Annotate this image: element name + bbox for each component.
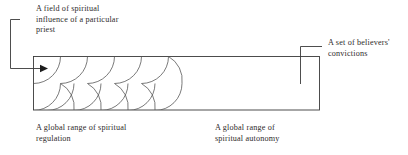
spiritual-influence-arc-field [34, 57, 183, 111]
label-believers-convictions: A set of believers' convictions [328, 38, 406, 59]
arc-tail-4 [142, 84, 156, 111]
label-spiritual-regulation: A global range of spiritual regulation [36, 123, 176, 144]
arc-upper-5 [142, 57, 169, 84]
believers-field-rectangle [34, 57, 320, 111]
arc-lower-5 [128, 84, 155, 111]
priest-influence-arrowhead [40, 65, 48, 72]
arc-lower-6 [155, 84, 182, 111]
arc-lower-3 [74, 84, 101, 111]
label-spiritual-autonomy: A global range of spiritual autonomy [215, 123, 325, 144]
arc-upper-2 [61, 57, 88, 84]
arc-upper-1 [34, 57, 61, 84]
arc-tail-3 [115, 84, 129, 111]
arc-tail-5 [169, 57, 183, 84]
arc-tail-2 [88, 84, 102, 111]
arc-upper-3 [88, 57, 115, 84]
leader-line-believers-convictions [301, 47, 323, 85]
arc-lower-4 [101, 84, 128, 111]
arc-upper-4 [115, 57, 142, 84]
arc-lower-1 [34, 84, 61, 111]
diagram-canvas: A field of spiritual influence of a part… [0, 0, 408, 155]
arc-tail-1 [61, 84, 75, 111]
label-priest-influence-field: A field of spiritual influence of a part… [36, 4, 156, 36]
